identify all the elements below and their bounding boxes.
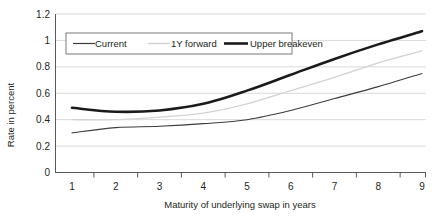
x-axis-tick-label: 3	[157, 181, 163, 192]
legend-label-current: Current	[95, 38, 127, 49]
y-axis-tick-label: 0.4	[36, 114, 50, 125]
y-axis-tick-labels: 00.20.40.60.811.2	[36, 9, 50, 179]
x-axis-tick-label: 2	[113, 181, 119, 192]
chart-container: 00.20.40.60.811.2 123456789 Current 1Y f…	[0, 0, 438, 220]
x-axis-title: Maturity of underlying swap in years	[164, 199, 316, 210]
y-axis-tick-label: 0.6	[36, 88, 50, 99]
chart-legend: Current 1Y forward Upper breakeven	[66, 33, 323, 54]
x-axis-tick-label: 8	[375, 181, 381, 192]
y-axis-title: Rate in percent	[5, 82, 16, 147]
x-axis-tick-label: 1	[69, 181, 75, 192]
y-axis-tick-label: 0	[44, 167, 50, 178]
y-axis-tick-label: 1.2	[36, 9, 50, 20]
legend-label-1y-forward: 1Y forward	[171, 38, 217, 49]
x-axis-tick-label: 7	[332, 181, 338, 192]
y-axis-tick-label: 0.2	[36, 141, 50, 152]
line-chart: 00.20.40.60.811.2 123456789 Current 1Y f…	[0, 0, 438, 220]
y-axis-tick-label: 1	[44, 35, 50, 46]
x-axis-tick-labels: 123456789	[69, 181, 425, 192]
x-axis-tick-label: 9	[419, 181, 425, 192]
x-axis-tick-label: 6	[288, 181, 294, 192]
y-axis-tick-label: 0.8	[36, 61, 50, 72]
x-axis-tick-label: 4	[200, 181, 206, 192]
x-axis-tick-marks	[94, 173, 426, 178]
x-axis-tick-label: 5	[244, 181, 250, 192]
legend-label-upper-breakeven: Upper breakeven	[250, 38, 323, 49]
series-line-1y-forward	[72, 51, 422, 120]
